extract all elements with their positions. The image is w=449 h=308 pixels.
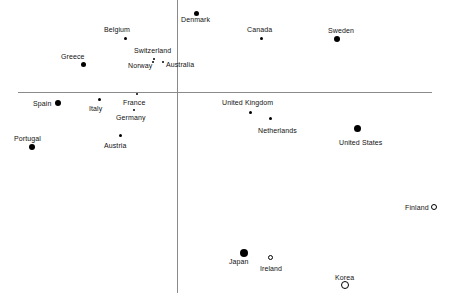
data-point-portugal[interactable]	[29, 144, 35, 150]
data-point-netherlands[interactable]	[269, 117, 272, 120]
point-label-italy: Italy	[89, 105, 102, 113]
data-point-spain[interactable]	[55, 100, 61, 106]
data-point-belgium[interactable]	[124, 37, 127, 40]
point-label-netherlands: Netherlands	[258, 127, 297, 135]
point-label-belgium: Belgium	[104, 26, 130, 34]
y-axis-line	[177, 0, 178, 293]
data-point-sweden[interactable]	[334, 36, 340, 42]
point-label-united-kingdom: United Kingdom	[222, 99, 273, 107]
point-label-australia: Australia	[166, 61, 194, 69]
data-point-italy[interactable]	[98, 98, 101, 101]
data-point-finland[interactable]	[431, 204, 437, 210]
data-point-germany[interactable]	[133, 109, 135, 111]
data-point-united-kingdom[interactable]	[249, 111, 252, 114]
x-axis-line	[18, 92, 432, 93]
point-label-greece: Greece	[61, 53, 85, 61]
point-label-germany: Germany	[116, 114, 146, 122]
data-point-canada[interactable]	[260, 37, 263, 40]
data-point-ireland[interactable]	[268, 255, 273, 260]
point-label-ireland: Ireland	[260, 265, 282, 273]
point-label-japan: Japan	[229, 258, 249, 266]
point-label-finland: Finland	[405, 204, 429, 212]
point-label-norway: Norway	[128, 62, 152, 70]
data-point-korea[interactable]	[341, 281, 349, 289]
data-point-switzerland[interactable]	[153, 58, 155, 60]
data-point-austria[interactable]	[119, 134, 122, 137]
point-label-spain: Spain	[33, 100, 51, 108]
data-point-greece[interactable]	[81, 62, 86, 67]
point-label-austria: Austria	[104, 142, 127, 150]
point-label-denmark: Denmark	[181, 16, 210, 24]
point-label-switzerland: Switzerland	[134, 47, 171, 55]
point-label-france: France	[123, 99, 145, 107]
point-label-sweden: Sweden	[328, 27, 354, 35]
data-point-france[interactable]	[136, 93, 138, 95]
point-label-korea: Korea	[335, 274, 354, 282]
data-point-united-states[interactable]	[354, 125, 361, 132]
point-label-portugal: Portugal	[14, 135, 41, 143]
data-point-australia[interactable]	[162, 61, 164, 63]
point-label-canada: Canada	[247, 26, 272, 34]
data-point-denmark[interactable]	[194, 11, 199, 16]
scatter-plot-canvas: DenmarkBelgiumCanadaSwedenGreeceSwitzerl…	[0, 0, 449, 308]
data-point-japan[interactable]	[240, 249, 248, 257]
point-label-united-states: United States	[339, 139, 382, 147]
